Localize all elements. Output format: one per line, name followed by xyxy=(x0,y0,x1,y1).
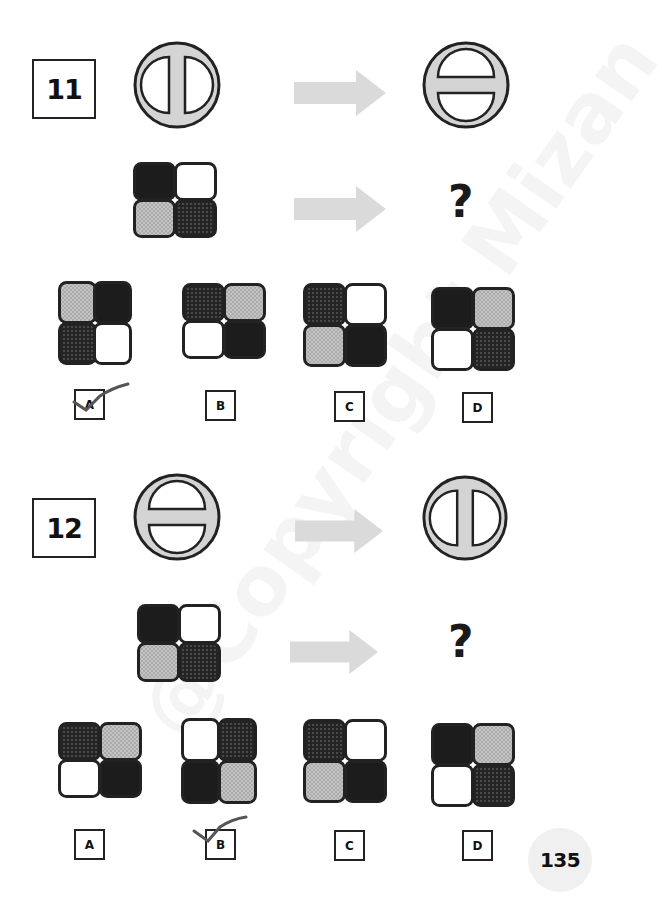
question-number-11: 11 xyxy=(32,59,96,119)
option-c-grid[interactable] xyxy=(303,719,387,803)
option-d-grid[interactable] xyxy=(431,723,515,807)
option-a-grid[interactable] xyxy=(58,722,142,798)
question-grid xyxy=(133,162,217,238)
option-d-checkbox[interactable]: D xyxy=(462,392,493,423)
question-mark: ? xyxy=(448,180,474,224)
option-c-grid[interactable] xyxy=(303,283,387,367)
option-b-grid[interactable] xyxy=(181,718,257,804)
option-d-checkbox[interactable]: D xyxy=(462,830,493,861)
option-a-checkbox[interactable]: A xyxy=(74,829,105,860)
circle-horizontal-bar-icon xyxy=(132,472,222,562)
option-c-checkbox[interactable]: C xyxy=(334,830,365,861)
arrow-right-icon xyxy=(294,186,386,232)
option-b-checkbox[interactable]: B xyxy=(205,390,236,421)
circle-vertical-bar-icon xyxy=(132,40,222,130)
question-number-12: 12 xyxy=(32,498,96,558)
circle-vertical-bar-icon xyxy=(421,474,509,562)
checkmark-icon xyxy=(192,815,252,849)
arrow-right-icon xyxy=(289,630,379,674)
question-grid xyxy=(137,604,221,682)
option-a-grid[interactable] xyxy=(58,281,132,365)
question-mark: ? xyxy=(448,620,474,664)
arrow-right-icon xyxy=(294,70,386,116)
option-c-checkbox[interactable]: C xyxy=(334,391,365,422)
circle-horizontal-bar-icon xyxy=(421,40,511,130)
page-number: 135 xyxy=(528,828,592,892)
arrow-right-icon xyxy=(294,509,384,553)
option-b-grid[interactable] xyxy=(182,283,266,359)
checkmark-icon xyxy=(72,382,132,416)
option-d-grid[interactable] xyxy=(431,287,515,371)
